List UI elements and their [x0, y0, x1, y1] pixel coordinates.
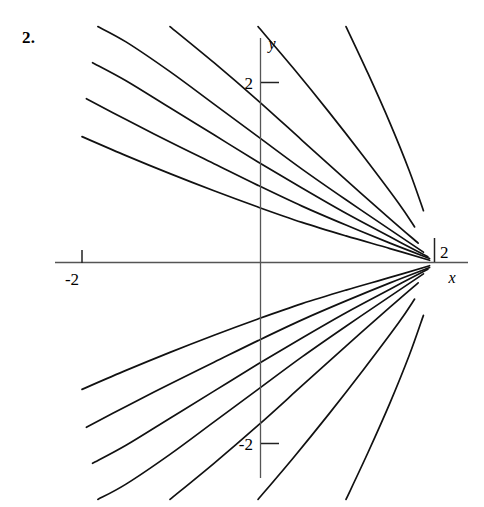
- curve-upper-2: [86, 99, 429, 259]
- curve-upper-5: [170, 27, 418, 244]
- x-axis-positive-tick-label: 2: [440, 243, 449, 262]
- curve-lower-5: [170, 283, 418, 500]
- y-axis-positive-tick-label: 2: [245, 74, 254, 93]
- y-axis-label: y: [266, 35, 276, 53]
- y-axis-negative-tick-label: -2: [239, 435, 253, 454]
- curve-lower-2: [86, 268, 429, 428]
- x-axis-negative-tick-label: -2: [65, 270, 79, 289]
- curve-upper-1: [82, 137, 430, 261]
- curve-lower-1: [82, 266, 430, 390]
- figure-container: 2. -2 2 -2 2 x y: [0, 0, 484, 507]
- solution-curves-plot: -2 2 -2 2 x y: [0, 0, 484, 507]
- x-axis-label: x: [447, 269, 455, 286]
